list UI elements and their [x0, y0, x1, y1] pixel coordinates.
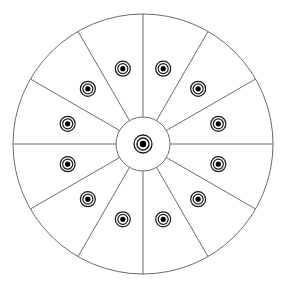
sector-marker-dot	[211, 116, 226, 131]
caption-strip	[0, 283, 286, 292]
sector-marker-dot	[115, 212, 130, 227]
sector-marker-dot	[156, 61, 171, 76]
sector-marker-dot	[211, 157, 226, 172]
sector-marker-dot	[191, 192, 206, 207]
center-marker	[134, 135, 152, 153]
radial-wheel-diagram	[0, 0, 286, 292]
figure-container	[0, 0, 286, 292]
sector-marker-dot	[115, 61, 130, 76]
sector-marker-dot	[156, 212, 171, 227]
sector-marker-dot	[80, 192, 95, 207]
sector-marker-dot	[60, 116, 75, 131]
sector-marker-dot	[60, 157, 75, 172]
sector-marker-dot	[191, 81, 206, 96]
center-marker-core	[140, 141, 146, 147]
sector-marker-dot	[80, 81, 95, 96]
